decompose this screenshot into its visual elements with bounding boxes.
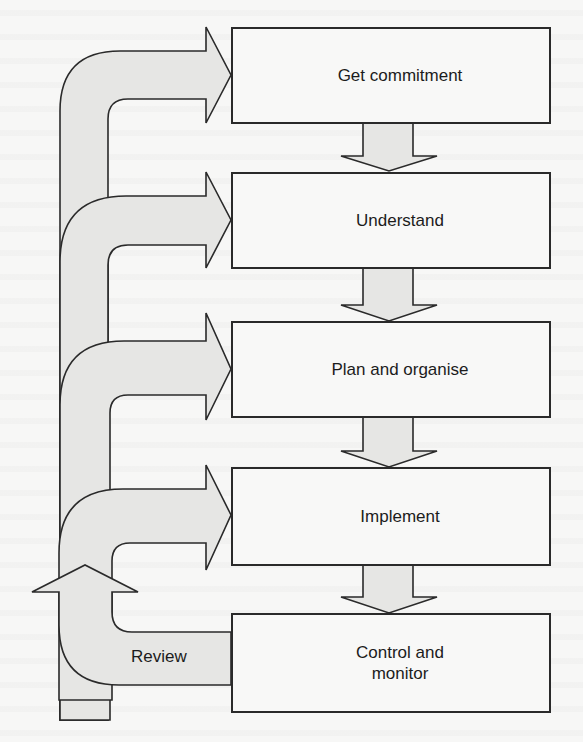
step-box-understand: Understand bbox=[231, 172, 551, 269]
step-box-plan-and-organise: Plan and organise bbox=[231, 321, 551, 418]
step-box-control-and-monitor: Control and monitor bbox=[231, 613, 551, 713]
review-label: Review bbox=[131, 646, 187, 667]
step-label: Implement bbox=[342, 506, 439, 527]
step-label: Understand bbox=[338, 210, 444, 231]
down-arrow-3-4 bbox=[341, 417, 437, 467]
down-arrow-1-2 bbox=[341, 123, 437, 171]
down-arrow-2-3 bbox=[341, 268, 437, 321]
step-box-implement: Implement bbox=[231, 467, 551, 566]
step-label: Control and monitor bbox=[338, 642, 444, 684]
down-arrow-4-5 bbox=[341, 565, 437, 613]
step-label: Get commitment bbox=[320, 65, 463, 86]
step-box-get-commitment: Get commitment bbox=[231, 27, 551, 124]
step-label: Plan and organise bbox=[313, 359, 468, 380]
